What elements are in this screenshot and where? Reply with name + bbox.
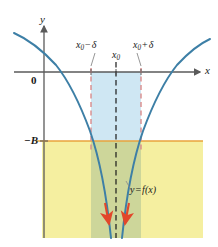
leader-x0-plus-delta (137, 53, 141, 66)
leader-x0-minus-delta (91, 53, 95, 66)
figure-container: y x 0 x0−δ x0 x0+δ −B y=f(x) (0, 0, 218, 247)
limit-diagram-svg (0, 0, 218, 247)
